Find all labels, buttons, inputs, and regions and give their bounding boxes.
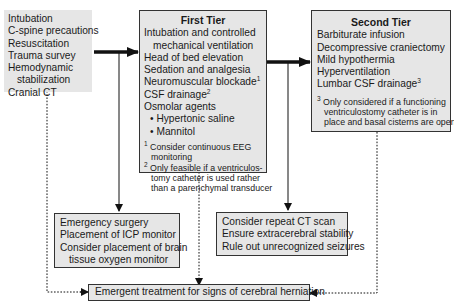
first-tier-footnote-2: 2 Only feasible if a ventriculos- tomy c… xyxy=(144,163,262,194)
initial-item: stabilization xyxy=(8,74,88,86)
herniation-label: Emergent treatment for signs of cerebral… xyxy=(95,286,303,298)
herniation-box: Emergent treatment for signs of cerebral… xyxy=(88,284,310,301)
second-tier-footnote-3: 3 Only considered if a functioning ventr… xyxy=(317,97,445,128)
initial-item: C-spine precautions xyxy=(8,25,88,37)
second-tier-item: Hyperventilation xyxy=(317,66,445,78)
first-tier-item: Head of bed elevation xyxy=(144,52,262,64)
initial-item: Resuscitation xyxy=(8,38,88,50)
footnote-mark: 3 xyxy=(417,77,421,84)
initial-management-box: Intubation C-spine precautions Resuscita… xyxy=(4,10,92,92)
first-tier-item: Intubation and controlled xyxy=(144,27,262,39)
second-tier-box: Second Tier Barbiturate infusion Decompr… xyxy=(311,10,451,132)
first-tier-item: Neuromuscular blockade1 xyxy=(144,76,262,88)
second-tier-item: Mild hypothermia xyxy=(317,54,445,66)
ct-box: Consider repeat CT scan Ensure extracere… xyxy=(216,212,348,256)
second-tier-title: Second Tier xyxy=(317,16,445,28)
ct-item: Ensure extracerebral stability xyxy=(222,228,342,240)
first-tier-title: First Tier xyxy=(144,14,262,26)
footnote-mark: 1 xyxy=(257,75,261,82)
second-tier-item: Barbiturate infusion xyxy=(317,29,445,41)
surgery-box: Emergency surgery Placement of ICP monit… xyxy=(54,213,180,268)
surgery-item: Placement of ICP monitor xyxy=(60,229,174,241)
first-tier-box: First Tier Intubation and controlled mec… xyxy=(139,10,267,173)
footnote-mark: 2 xyxy=(207,88,211,95)
surgery-item: Consider placement of brain xyxy=(60,242,174,254)
ct-item: Consider repeat CT scan xyxy=(222,216,342,228)
surgery-item: tissue oxygen monitor xyxy=(60,254,174,266)
first-tier-item: CSF drainage2 xyxy=(144,89,262,101)
initial-item: Hemodynamic xyxy=(8,62,88,74)
first-tier-bullet: Hypertonic saline xyxy=(144,113,262,125)
initial-item: Trauma survey xyxy=(8,50,88,62)
first-tier-bullet: Mannitol xyxy=(144,126,262,138)
first-tier-item: Sedation and analgesia xyxy=(144,64,262,76)
first-tier-footnote-1: 1 Consider continuous EEG monitoring xyxy=(144,142,262,163)
ct-item: Rule out unrecognized seizures xyxy=(222,241,342,253)
initial-item: Cranial CT xyxy=(8,87,88,99)
surgery-item: Emergency surgery xyxy=(60,217,174,229)
first-tier-item: mechanical ventilation xyxy=(144,40,262,52)
initial-item: Intubation xyxy=(8,13,88,25)
second-tier-item: Decompressive craniectomy xyxy=(317,42,445,54)
first-tier-item: Osmolar agents xyxy=(144,101,262,113)
second-tier-item: Lumbar CSF drainage3 xyxy=(317,78,445,90)
